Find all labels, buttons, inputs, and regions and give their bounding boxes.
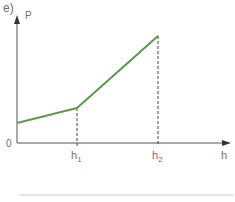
tick-h1-sub: 1 bbox=[77, 155, 81, 164]
y-axis-arrow-icon bbox=[14, 15, 20, 24]
x-axis-arrow-icon bbox=[222, 140, 231, 146]
x-axis-label: h bbox=[221, 150, 227, 161]
data-line bbox=[17, 36, 158, 123]
tick-h2-sub: 2 bbox=[158, 155, 162, 164]
origin-label: 0 bbox=[6, 139, 12, 149]
tick-h1: h1 bbox=[71, 150, 82, 164]
tick-h2: h2 bbox=[152, 150, 163, 164]
y-axis-label: P bbox=[25, 11, 32, 21]
panel-label: e) bbox=[3, 2, 14, 14]
chart-canvas bbox=[0, 0, 235, 202]
